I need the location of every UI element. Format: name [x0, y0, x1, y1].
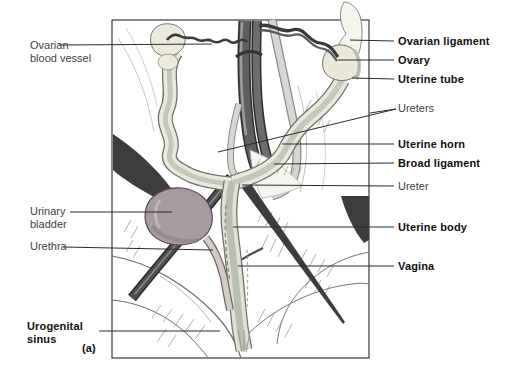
label-urogenital-sinus: Urogenital sinus — [27, 320, 83, 346]
figure-panel: Ovarian blood vessel Urinary bladder Ure… — [0, 0, 510, 390]
label-urinary-bladder: Urinary bladder — [30, 205, 67, 231]
panel-letter: (a) — [82, 342, 96, 355]
label-urethra: Urethra — [30, 240, 67, 253]
label-ureter: Ureter — [398, 180, 429, 193]
label-uterine-body: Uterine body — [398, 221, 467, 234]
label-vagina: Vagina — [398, 260, 434, 273]
label-broad-ligament: Broad ligament — [398, 157, 480, 170]
label-ureters: Ureters — [398, 102, 434, 115]
label-uterine-tube: Uterine tube — [398, 73, 464, 86]
label-ovarian-ligament: Ovarian ligament — [398, 35, 490, 48]
label-uterine-horn: Uterine horn — [398, 138, 465, 151]
label-ovary: Ovary — [398, 54, 430, 67]
label-ovarian-blood-vessel: Ovarian blood vessel — [30, 39, 91, 65]
